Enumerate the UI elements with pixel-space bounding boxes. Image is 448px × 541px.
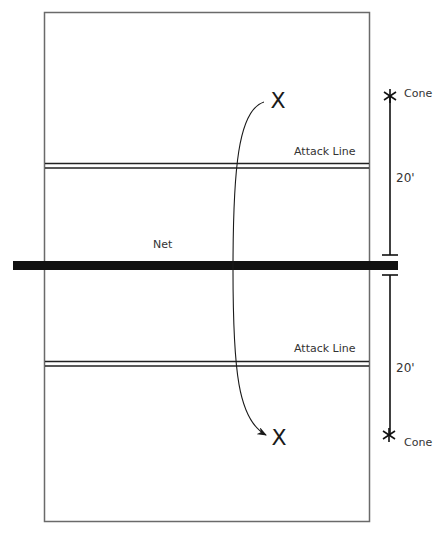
distance-label-bottom: 20'	[396, 361, 415, 375]
attack-line-top	[45, 164, 369, 169]
player-marker-bottom: X	[271, 425, 286, 450]
cone-icon-bottom	[383, 428, 395, 442]
net-label: Net	[153, 238, 173, 251]
cone-label-bottom: Cone	[404, 436, 432, 449]
cone-label-top: Cone	[404, 87, 432, 100]
attack-line-bottom-label: Attack Line	[294, 342, 356, 355]
net	[13, 261, 398, 270]
distance-label-top: 20'	[396, 171, 415, 185]
player-marker-top: X	[270, 88, 285, 113]
court-diagram: Attack Line Attack Line Net X X 20' 20' …	[0, 0, 448, 541]
attack-line-bottom	[45, 362, 369, 367]
attack-line-top-label: Attack Line	[294, 145, 356, 158]
distance-measure-bottom	[382, 275, 398, 435]
cone-icon-top	[384, 89, 396, 103]
